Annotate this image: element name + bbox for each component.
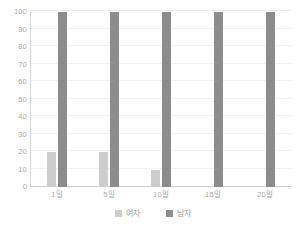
y-axis-tick-label: 40 [0,113,27,121]
y-axis-tick-label: 30 [0,131,27,139]
x-axis-tick-label: 5일 [103,190,115,200]
legend-swatch-icon [115,210,122,217]
x-axis-tick-label: 1일 [51,190,63,200]
bar-chart: 1009080706050403020100 1일5일10일15일20일 여자남… [0,0,306,235]
y-axis-tick-label: 80 [0,43,27,51]
y-axis-tick-label: 0 [0,183,27,191]
legend-label: 여자 [126,209,140,218]
bar [214,12,223,187]
bar [110,12,119,187]
gridline [31,10,291,11]
x-axis: 1일5일10일15일20일 [31,190,291,204]
bar-group [203,12,223,187]
y-axis: 1009080706050403020100 [0,12,27,187]
chart-legend: 여자남자 [0,209,306,218]
bar [266,12,275,187]
bar [162,12,171,187]
bar [47,152,56,187]
bar-group [99,12,119,187]
y-axis-tick-label: 10 [0,166,27,174]
y-axis-tick-label: 60 [0,78,27,86]
x-axis-tick-label: 10일 [153,190,169,200]
bar [58,12,67,187]
y-axis-tick-label: 100 [0,8,27,16]
bar-group [255,12,275,187]
bar-group [151,12,171,187]
y-axis-tick-label: 90 [0,26,27,34]
bar-group [47,12,67,187]
bar [99,152,108,187]
bar [151,170,160,188]
legend-label: 남자 [177,209,191,218]
x-axis-tick-label: 20일 [257,190,273,200]
y-axis-tick-label: 20 [0,148,27,156]
y-axis-tick-label: 50 [0,96,27,104]
x-axis-tick-label: 15일 [205,190,221,200]
bars-layer [31,12,291,187]
y-axis-tick-label: 70 [0,61,27,69]
legend-item-여자[interactable]: 여자 [115,209,140,218]
legend-swatch-icon [166,210,173,217]
legend-item-남자[interactable]: 남자 [166,209,191,218]
